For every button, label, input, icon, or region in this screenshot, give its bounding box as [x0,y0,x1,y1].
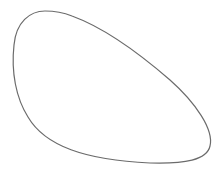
blob-diagram [0,0,221,172]
diagram-canvas [0,0,221,172]
closed-curve-shape [13,11,210,163]
